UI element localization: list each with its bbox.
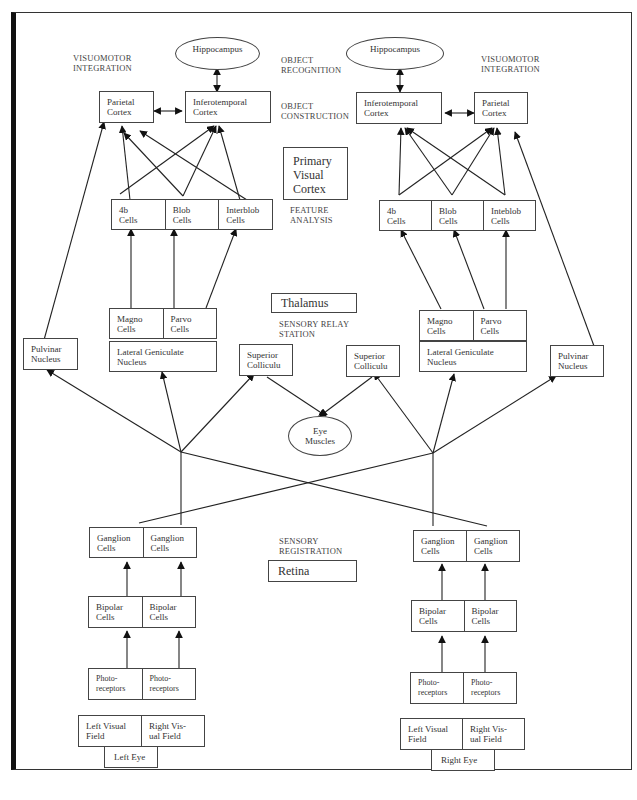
left-interblob-cells: Interblob Cells bbox=[218, 200, 272, 229]
left-lgn-cells: Magno Cells Parvo Cells bbox=[109, 308, 217, 339]
right-4b-cells: 4b Cells bbox=[380, 201, 431, 230]
left-parietal-cortex: Parietal Cortex bbox=[99, 91, 154, 123]
right-pulvinar-nucleus: Pulvinar Nucleus bbox=[550, 345, 604, 377]
right-inteblob-cells: Inteblob Cells bbox=[483, 201, 535, 230]
right-ganglion-cell-1: Ganglion Cells bbox=[414, 531, 466, 561]
primary-visual-cortex-box: Primary Visual Cortex bbox=[283, 147, 348, 200]
left-eye-box: Left Eye bbox=[104, 746, 158, 768]
left-bipolar-cells: Bipolar Cells Bipolar Cells bbox=[88, 596, 196, 628]
left-bipolar-cell-1: Bipolar Cells bbox=[89, 597, 142, 627]
right-superior-colliculus: Superior Colliculu bbox=[346, 345, 400, 377]
right-parietal-cortex: Parietal Cortex bbox=[474, 92, 528, 124]
left-visual-fields: Left Visual Field Right Vis- ual Field bbox=[78, 715, 205, 747]
left-parvo-cells: Parvo Cells bbox=[163, 309, 217, 338]
right-bipolar-cell-2: Bipolar Cells bbox=[464, 601, 517, 631]
left-superior-colliculus: Superior Colliculu bbox=[239, 344, 293, 376]
label-feature-analysis: FEATURE ANALYSIS bbox=[290, 205, 333, 225]
left-photoreceptors: Photo- receptors Photo- receptors bbox=[88, 668, 196, 700]
right-bipolar-cell-1: Bipolar Cells bbox=[412, 601, 464, 631]
label-visuomotor-right: VISUOMOTOR INTEGRATION bbox=[481, 54, 540, 74]
right-blob-cells: Blob Cells bbox=[431, 201, 483, 230]
label-sensory-relay: SENSORY RELAY STATION bbox=[279, 319, 349, 339]
left-ganglion-cell-1: Ganglion Cells bbox=[90, 528, 143, 557]
right-lateral-geniculate-nucleus: Lateral Geniculate Nucleus bbox=[419, 341, 527, 372]
left-ganglion-cell-2: Ganglion Cells bbox=[143, 528, 197, 557]
left-hippocampus: Hippocampus bbox=[175, 37, 260, 70]
label-sensory-registration: SENSORY REGISTRATION bbox=[279, 536, 342, 556]
left-magno-cells: Magno Cells bbox=[110, 309, 163, 338]
right-visual-fields: Left Visual Field Right Vis- ual Field bbox=[400, 718, 525, 750]
thalamus-box: Thalamus bbox=[271, 293, 357, 313]
left-pulvinar-nucleus: Pulvinar Nucleus bbox=[23, 338, 78, 370]
retina-box: Retina bbox=[268, 560, 357, 582]
label-visuomotor-left: VISUOMOTOR INTEGRATION bbox=[73, 53, 132, 73]
right-photoreceptor-1: Photo- receptors bbox=[411, 673, 463, 703]
right-hippocampus: Hippocampus bbox=[346, 37, 444, 70]
right-magno-cells: Magno Cells bbox=[420, 311, 473, 340]
right-eye-right-visual-field: Right Vis- ual Field bbox=[462, 719, 524, 749]
label-object-construction: OBJECT CONSTRUCTION bbox=[281, 101, 349, 121]
left-lateral-geniculate-nucleus: Lateral Geniculate Nucleus bbox=[109, 341, 217, 372]
right-ganglion-cells: Ganglion Cells Ganglion Cells bbox=[413, 530, 520, 562]
left-cortex-cells: 4b Cells Blob Cells Interblob Cells bbox=[111, 199, 273, 230]
left-blob-cells: Blob Cells bbox=[165, 200, 219, 229]
left-eye-left-visual-field: Left Visual Field bbox=[79, 716, 141, 746]
right-photoreceptor-2: Photo- receptors bbox=[463, 673, 516, 703]
right-bipolar-cells: Bipolar Cells Bipolar Cells bbox=[411, 600, 517, 632]
right-lgn-cells: Magno Cells Parvo Cells bbox=[419, 310, 527, 341]
right-cortex-cells: 4b Cells Blob Cells Inteblob Cells bbox=[379, 200, 536, 231]
left-4b-cells: 4b Cells bbox=[112, 200, 165, 229]
right-eye-box: Right Eye bbox=[431, 749, 495, 771]
right-ganglion-cell-2: Ganglion Cells bbox=[466, 531, 519, 561]
label-object-recognition: OBJECT RECOGNITION bbox=[281, 55, 341, 75]
left-inferotemporal-cortex: Inferotemporal Cortex bbox=[185, 91, 271, 123]
right-photoreceptors: Photo- receptors Photo- receptors bbox=[410, 672, 517, 704]
right-parvo-cells: Parvo Cells bbox=[473, 311, 527, 340]
right-inferotemporal-cortex: Inferotemporal Cortex bbox=[356, 92, 442, 124]
left-bipolar-cell-2: Bipolar Cells bbox=[142, 597, 196, 627]
left-photoreceptor-1: Photo- receptors bbox=[89, 669, 142, 699]
left-eye-right-visual-field: Right Vis- ual Field bbox=[141, 716, 204, 746]
left-photoreceptor-2: Photo- receptors bbox=[142, 669, 196, 699]
left-ganglion-cells: Ganglion Cells Ganglion Cells bbox=[89, 527, 197, 558]
eye-muscles: Eye Muscles bbox=[288, 416, 352, 456]
right-eye-left-visual-field: Left Visual Field bbox=[401, 719, 462, 749]
